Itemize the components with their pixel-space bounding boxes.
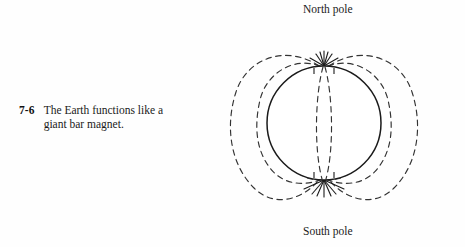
earth-globe — [267, 66, 381, 180]
north-pole-label: North pole — [303, 3, 353, 15]
figure-page: 7-6 The Earth functions like a giant bar… — [0, 0, 465, 247]
field-diagram-svg — [190, 0, 465, 247]
figure-number: 7-6 — [19, 103, 44, 117]
figure-caption: 7-6 The Earth functions like a giant bar… — [19, 103, 209, 131]
north-pole-convergence-spokes — [310, 51, 338, 66]
south-pole-label: South pole — [303, 225, 353, 237]
earth-magnetic-field-diagram: North pole South pole — [190, 0, 465, 247]
figure-caption-text: The Earth functions like a giant bar mag… — [44, 103, 189, 131]
